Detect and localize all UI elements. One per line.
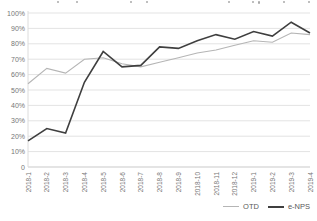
y-tick-label: 80% [11,40,25,47]
legend-label-otd: OTD [243,202,259,211]
y-tick-label: 0 [21,164,25,171]
y-tick-label: 90% [11,25,25,32]
legend-label-enps: e-NPS [288,202,310,211]
legend-item-enps: e-NPS [268,202,310,211]
y-tick-label: 100% [7,10,25,17]
x-tick-label: 2018-12 [231,172,238,196]
y-tick-label: 40% [11,102,25,109]
legend-item-otd: OTD [223,202,259,211]
enps-series-line [28,22,310,141]
plot-area: 100%90%80%70%60%50%40%30%20%10%02018-120… [0,0,317,221]
x-tick-label: 2018-5 [100,172,107,193]
otd-line-swatch [223,206,239,207]
x-tick-label: 2018-3 [62,172,69,193]
x-tick-label: 2019-2 [269,172,276,193]
y-tick-label: 20% [11,133,25,140]
x-tick-label: 2018-1 [25,172,32,193]
x-tick-label: 2018-10 [194,172,201,196]
x-tick-label: 2019-1 [250,172,257,193]
y-tick-label: 50% [11,87,25,94]
x-tick-label: 2018-2 [43,172,50,193]
x-tick-label: 2018-9 [175,172,182,193]
x-tick-label: 2019-3 [288,172,295,193]
y-tick-label: 10% [11,148,25,155]
chart-legend: OTD e-NPS [223,202,310,211]
x-tick-label: 2018-11 [213,172,220,196]
x-tick-label: 2018-7 [137,172,144,193]
otd-series-line [28,33,310,84]
y-tick-label: 70% [11,56,25,63]
y-tick-label: 60% [11,71,25,78]
x-tick-label: 2019-4 [307,172,314,193]
x-tick-label: 2018-8 [156,172,163,193]
line-chart: 100%90%80%70%60%50%40%30%20%10%02018-120… [0,0,317,221]
x-tick-label: 2018-4 [81,172,88,193]
enps-line-swatch [268,206,284,208]
y-tick-label: 30% [11,117,25,124]
x-tick-label: 2018-6 [119,172,126,193]
